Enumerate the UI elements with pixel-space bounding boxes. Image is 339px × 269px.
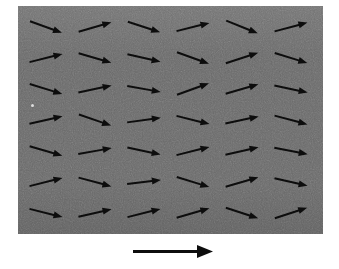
- field-arrow: [274, 115, 307, 126]
- field-arrow: [274, 84, 307, 94]
- vector-field-panel: [18, 6, 323, 234]
- field-arrow: [30, 20, 62, 33]
- field-arrow: [128, 21, 161, 33]
- field-arrow: [176, 176, 209, 188]
- field-arrow: [226, 20, 258, 34]
- field-arrow: [225, 115, 258, 125]
- field-arrow: [29, 145, 62, 156]
- field-arrow: [127, 178, 161, 186]
- field-arrow: [29, 177, 62, 187]
- field-arrow: [225, 176, 258, 187]
- field-arrow: [176, 22, 209, 32]
- field-arrow: [79, 114, 111, 126]
- field-arrow: [226, 52, 259, 64]
- field-arrow: [225, 146, 258, 156]
- field-arrow: [177, 83, 209, 96]
- field-arrow: [29, 83, 62, 95]
- field-arrow: [274, 147, 308, 156]
- scale-reference-arrow: [123, 235, 223, 268]
- field-arrow: [177, 51, 209, 64]
- figure-canvas: [0, 0, 339, 269]
- field-arrow: [274, 52, 307, 64]
- field-arrow: [78, 146, 112, 155]
- field-arrow: [29, 208, 62, 218]
- field-arrow: [176, 207, 209, 218]
- field-arrow: [225, 83, 258, 94]
- field-arrow: [127, 53, 160, 63]
- field-arrow: [78, 21, 111, 32]
- field-arrow: [29, 115, 62, 125]
- field-arrow: [78, 208, 111, 218]
- field-arrow: [176, 115, 209, 125]
- field-arrow: [226, 207, 259, 219]
- field-arrow: [78, 177, 111, 188]
- field-arrow: [176, 146, 209, 156]
- field-arrow: [127, 85, 161, 94]
- field-arrow: [127, 115, 161, 123]
- scale-arrow-glyph: [133, 245, 213, 258]
- field-arrow: [274, 177, 307, 187]
- field-arrow: [275, 207, 308, 219]
- field-arrow: [78, 52, 111, 63]
- field-arrow: [78, 84, 111, 94]
- field-arrow: [274, 22, 307, 33]
- dust-speck: [31, 104, 34, 107]
- field-arrow: [127, 146, 160, 156]
- arrow-grid: [18, 6, 323, 234]
- field-arrow: [29, 53, 62, 63]
- field-arrow: [127, 208, 160, 218]
